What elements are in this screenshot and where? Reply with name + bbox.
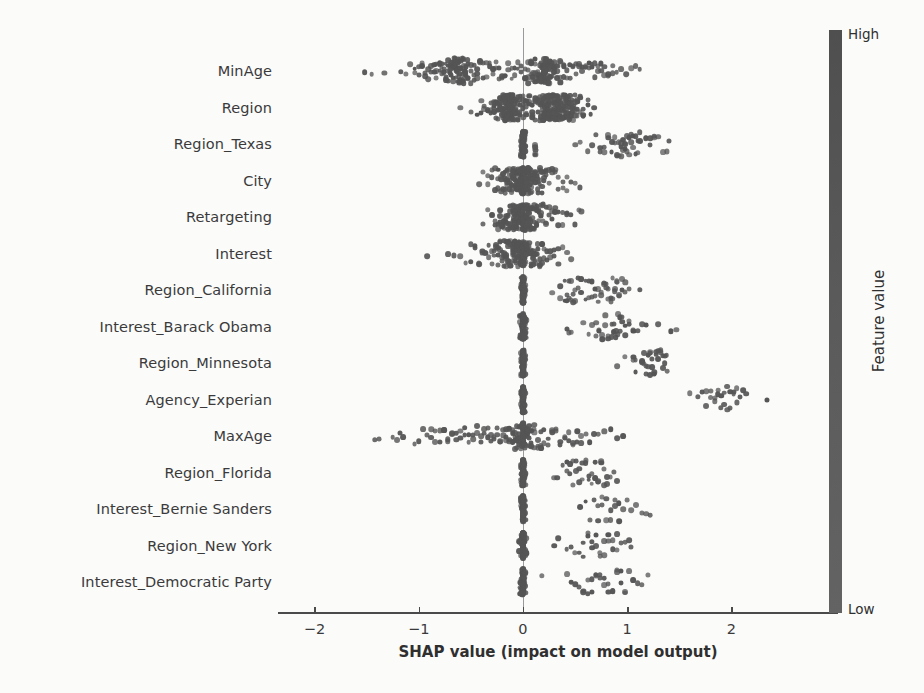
data-point <box>585 103 590 108</box>
data-point <box>703 403 709 409</box>
data-point <box>485 182 490 187</box>
data-point <box>648 350 653 355</box>
data-point <box>596 432 601 437</box>
data-point <box>629 545 634 550</box>
data-point <box>605 132 611 138</box>
data-point <box>420 426 426 432</box>
data-point <box>593 132 598 137</box>
data-point <box>489 261 494 266</box>
data-point <box>589 279 594 284</box>
data-point <box>523 410 528 415</box>
data-point <box>564 188 569 193</box>
data-point <box>539 184 545 190</box>
data-point <box>521 154 526 159</box>
data-point <box>593 543 599 549</box>
data-point <box>606 287 611 292</box>
data-point <box>637 138 643 144</box>
data-point <box>602 322 608 328</box>
data-point <box>611 321 616 326</box>
data-point <box>523 498 528 503</box>
data-point <box>404 71 409 76</box>
data-point <box>462 425 468 431</box>
data-point <box>602 467 607 472</box>
data-point <box>489 175 495 181</box>
data-point <box>633 370 638 375</box>
data-point <box>523 293 528 298</box>
y-axis-label: Region_Florida <box>0 465 272 481</box>
data-point <box>486 243 491 248</box>
data-point <box>633 502 639 508</box>
data-point <box>556 535 562 541</box>
data-point <box>470 436 476 442</box>
data-point <box>545 442 550 447</box>
y-axis-label: Region_Minnesota <box>0 355 272 371</box>
data-point <box>394 437 400 443</box>
data-point <box>522 510 528 516</box>
data-point <box>737 394 742 399</box>
data-point <box>581 114 586 119</box>
data-point <box>522 503 528 509</box>
data-point <box>529 189 534 194</box>
data-point <box>522 362 527 367</box>
data-point <box>581 554 586 559</box>
data-point <box>599 290 604 295</box>
data-point <box>551 543 557 549</box>
data-point <box>578 140 583 145</box>
y-axis-label: Region_California <box>0 282 272 298</box>
data-point <box>589 590 594 595</box>
data-point <box>543 221 549 227</box>
data-point <box>627 322 632 327</box>
data-point <box>558 443 563 448</box>
data-point <box>627 287 632 292</box>
data-point <box>743 391 749 397</box>
data-point <box>593 333 598 338</box>
y-axis-label: Interest_Barack Obama <box>0 319 272 335</box>
data-point <box>595 478 601 484</box>
data-point <box>610 588 616 594</box>
y-axis-feature-labels: MinAgeRegionRegion_TexasCityRetargetingI… <box>0 0 272 693</box>
data-point <box>568 212 573 217</box>
data-point <box>637 130 643 136</box>
data-point <box>620 506 626 512</box>
data-point <box>614 435 620 441</box>
data-point <box>627 152 633 158</box>
data-point <box>611 469 616 474</box>
data-point <box>452 253 457 258</box>
data-point <box>593 532 598 537</box>
data-point <box>503 74 508 79</box>
data-point <box>522 149 528 155</box>
colorbar: High Low <box>829 30 842 613</box>
x-axis: −2−1012 <box>278 612 838 614</box>
data-point <box>552 253 557 258</box>
data-point <box>424 253 430 259</box>
data-point <box>618 569 623 574</box>
data-point <box>522 517 527 522</box>
data-point <box>474 66 480 72</box>
data-point <box>522 287 528 293</box>
y-axis-label: Agency_Experian <box>0 392 272 408</box>
data-point <box>610 63 615 68</box>
data-point <box>490 71 495 76</box>
data-point <box>533 152 538 157</box>
data-point <box>581 107 586 112</box>
data-point <box>546 81 552 87</box>
data-point <box>419 63 425 69</box>
data-point <box>369 72 374 77</box>
data-point <box>503 191 508 196</box>
data-point <box>495 262 500 267</box>
data-point <box>593 460 598 465</box>
data-point <box>522 590 527 595</box>
data-point <box>522 353 528 359</box>
data-point <box>512 73 518 79</box>
data-point <box>591 497 596 502</box>
data-point <box>587 439 593 445</box>
data-point <box>445 439 451 445</box>
data-point <box>522 372 528 378</box>
data-point <box>581 320 586 325</box>
data-point <box>618 329 623 334</box>
data-point <box>574 72 579 77</box>
colorbar-gradient <box>829 30 842 613</box>
x-axis-spine <box>278 612 838 614</box>
data-point <box>522 470 528 476</box>
data-point <box>635 328 640 333</box>
